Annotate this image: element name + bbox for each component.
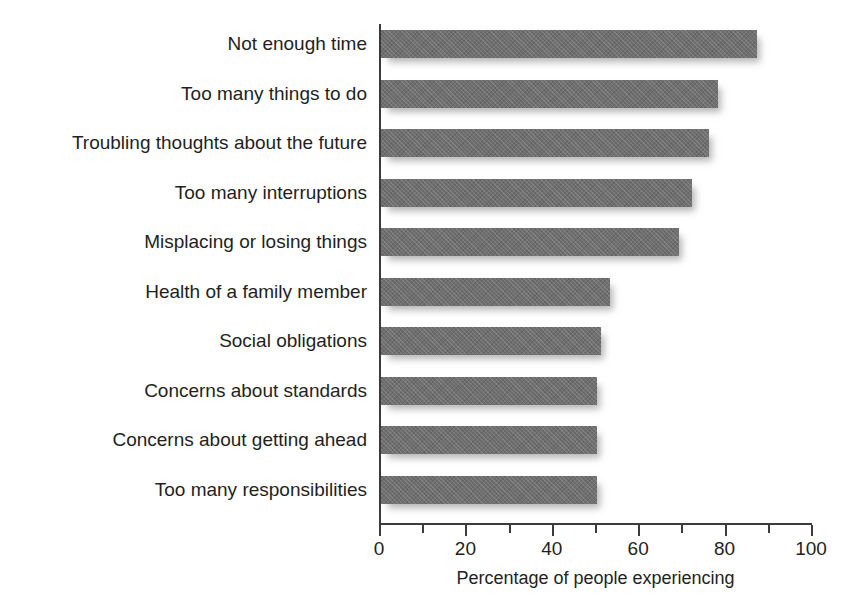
x-tick-major: [725, 525, 727, 536]
bar-row: Not enough time: [0, 30, 841, 58]
figure-container: Figure 1 Sources of everyday stress Not …: [0, 0, 841, 606]
x-tick-minor: [595, 525, 597, 533]
bar-row: Misplacing or losing things: [0, 228, 841, 256]
x-tick-label: 80: [714, 538, 735, 560]
bar: [381, 80, 718, 108]
bar-row: Too many things to do: [0, 80, 841, 108]
bar: [381, 327, 601, 355]
bar: [381, 426, 597, 454]
x-tick-major: [811, 525, 813, 536]
bar-row: Troubling thoughts about the future: [0, 129, 841, 157]
category-label: Health of a family member: [145, 278, 367, 306]
bar: [381, 179, 692, 207]
bar-row: Too many responsibilities: [0, 476, 841, 504]
category-label: Misplacing or losing things: [144, 228, 367, 256]
bar: [381, 476, 597, 504]
bar: [381, 377, 597, 405]
category-label: Troubling thoughts about the future: [72, 129, 367, 157]
x-tick-minor: [681, 525, 683, 533]
bar-row: Concerns about standards: [0, 377, 841, 405]
bar: [381, 129, 709, 157]
bar-row: Concerns about getting ahead: [0, 426, 841, 454]
category-label: Too many things to do: [181, 80, 367, 108]
x-tick-label: 20: [455, 538, 476, 560]
bar-row: Health of a family member: [0, 278, 841, 306]
x-axis-title: Percentage of people experiencing: [379, 568, 812, 589]
x-tick-major: [379, 525, 381, 536]
category-label: Too many interruptions: [175, 179, 367, 207]
category-label: Concerns about standards: [144, 377, 367, 405]
x-tick-minor: [422, 525, 424, 533]
bar: [381, 278, 610, 306]
x-tick-label: 0: [374, 538, 385, 560]
category-label: Too many responsibilities: [155, 476, 367, 504]
bar-row: Too many interruptions: [0, 179, 841, 207]
category-label: Social obligations: [219, 327, 367, 355]
category-label: Not enough time: [228, 30, 367, 58]
x-tick-label: 100: [795, 538, 827, 560]
bar: [381, 30, 757, 58]
bar-row: Social obligations: [0, 327, 841, 355]
x-tick-label: 40: [541, 538, 562, 560]
x-tick-major: [465, 525, 467, 536]
x-tick-major: [638, 525, 640, 536]
x-tick-label: 60: [628, 538, 649, 560]
bar: [381, 228, 679, 256]
category-label: Concerns about getting ahead: [112, 426, 367, 454]
x-tick-major: [552, 525, 554, 536]
bar-chart: Not enough timeToo many things to doTrou…: [0, 0, 841, 606]
x-tick-minor: [768, 525, 770, 533]
x-tick-minor: [509, 525, 511, 533]
